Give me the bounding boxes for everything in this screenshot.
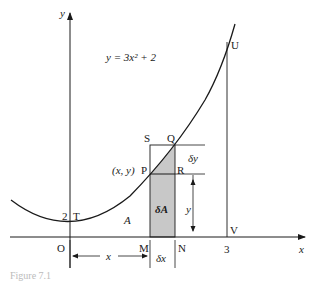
x-width-label: x [106, 251, 111, 262]
point-m: M [139, 243, 149, 254]
point-r: R [177, 165, 184, 176]
point-q: Q [167, 133, 175, 144]
point-p: P [141, 165, 147, 176]
point-v: V [230, 225, 238, 236]
t-value: 2 [62, 211, 68, 222]
figure-caption: Figure 7.1 [10, 270, 51, 281]
tick-3: 3 [224, 244, 230, 255]
y-axis-label: y [60, 8, 65, 19]
point-s: S [144, 133, 150, 144]
dy-label: δy [188, 153, 198, 164]
point-u: U [231, 40, 239, 51]
point-p-coords: (x, y) [112, 165, 135, 176]
dx-label: δx [156, 253, 166, 264]
strip-area-label: δA [155, 204, 168, 215]
point-n: N [178, 243, 186, 254]
area-label: A [124, 215, 131, 226]
x-axis-label: x [299, 244, 304, 255]
height-label: y [186, 204, 191, 215]
origin-label: O [57, 243, 65, 254]
point-t: T [73, 211, 80, 222]
equation-label: y = 3x² + 2 [106, 52, 156, 63]
